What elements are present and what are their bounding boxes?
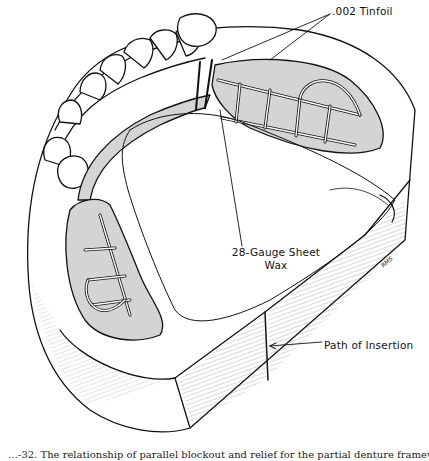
dental-cast-illustration: .002 Tinfoil 28-Gauge Sheet Wax Path of … [0,0,429,440]
sheet-wax-label-line1: 28-Gauge Sheet [226,246,326,259]
figure-caption: …-32. The relationship of parallel block… [8,449,429,461]
path-of-insertion-label: Path of Insertion [324,339,413,352]
sheet-wax-label: 28-Gauge Sheet Wax [226,246,326,272]
tinfoil-label: .002 Tinfoil [332,5,393,18]
cast-drawing [0,0,429,440]
sheet-wax-label-line2: Wax [226,259,326,272]
